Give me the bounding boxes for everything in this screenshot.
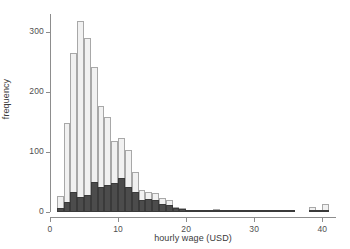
- histogram-bar-total: [70, 53, 77, 212]
- histogram-bar-subgroup: [186, 210, 193, 212]
- histogram-bar-subgroup: [261, 210, 268, 212]
- histogram-bar-subgroup: [227, 210, 234, 212]
- histogram-bar-subgroup: [91, 182, 98, 212]
- y-tick-label: 300: [29, 26, 44, 36]
- histogram-bar-subgroup: [200, 210, 207, 212]
- histogram-bar-subgroup: [247, 210, 254, 212]
- histogram-bar-subgroup: [139, 200, 146, 212]
- histogram-bar-subgroup: [173, 208, 180, 212]
- histogram-bar-subgroup: [77, 197, 84, 212]
- histogram-bar-subgroup: [241, 210, 248, 212]
- x-tick-mark: [322, 218, 323, 222]
- histogram-bar-subgroup: [322, 210, 329, 212]
- histogram-bar-subgroup: [282, 210, 289, 212]
- histogram-bar-subgroup: [84, 195, 91, 212]
- histogram-bar-subgroup: [193, 210, 200, 212]
- histogram-bar-subgroup: [132, 192, 139, 212]
- histogram-bar-subgroup: [98, 187, 105, 212]
- x-tick-mark: [118, 218, 119, 222]
- histogram-bar-subgroup: [159, 204, 166, 212]
- histogram-bar-subgroup: [166, 205, 173, 212]
- histogram-bar-subgroup: [275, 210, 282, 212]
- histogram-bar-subgroup: [111, 183, 118, 212]
- histogram-bar-subgroup: [179, 209, 186, 212]
- plot-area: [50, 14, 336, 212]
- y-tick-label: 0: [39, 206, 44, 216]
- histogram-bar-subgroup: [220, 210, 227, 212]
- histogram-bar-subgroup: [57, 208, 64, 212]
- x-tick-mark: [186, 218, 187, 222]
- histogram-bar-subgroup: [234, 210, 241, 212]
- histogram-bar-total: [84, 38, 91, 212]
- histogram-bar-subgroup: [207, 210, 214, 212]
- histogram-bar-subgroup: [152, 200, 159, 212]
- histogram-bar-subgroup: [125, 187, 132, 212]
- histogram-bar-subgroup: [213, 210, 220, 212]
- x-tick-mark: [254, 218, 255, 222]
- histogram-figure: 0100200300 010203040 frequency hourly wa…: [0, 0, 350, 249]
- y-tick-label: 100: [29, 146, 44, 156]
- histogram-bar-subgroup: [309, 210, 316, 212]
- histogram-bar-subgroup: [70, 192, 77, 212]
- y-tick-label: 200: [29, 86, 44, 96]
- histogram-bar-subgroup: [316, 210, 323, 212]
- histogram-bar-total: [77, 21, 84, 212]
- histogram-bar-subgroup: [254, 210, 261, 212]
- histogram-bar-subgroup: [268, 210, 275, 212]
- histogram-bar-subgroup: [118, 178, 125, 212]
- histogram-bar-subgroup: [64, 202, 71, 212]
- histogram-bar-subgroup: [288, 210, 295, 212]
- histogram-bar-total: [64, 123, 71, 212]
- x-tick-mark: [50, 218, 51, 222]
- x-axis-label: hourly wage (USD): [50, 233, 336, 243]
- histogram-bar-subgroup: [145, 199, 152, 212]
- histogram-bar-subgroup: [104, 185, 111, 212]
- y-axis-label: frequency: [1, 79, 11, 119]
